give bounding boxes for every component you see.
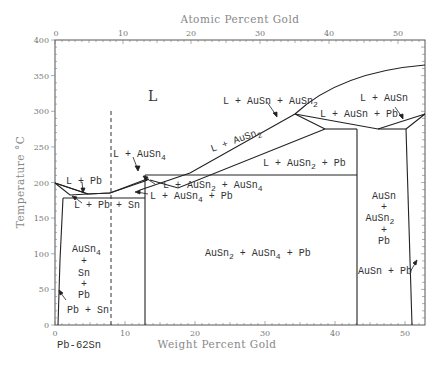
svg-text:350: 350 xyxy=(34,72,49,81)
label-l-ausn: L + AuSn xyxy=(360,93,408,104)
svg-text:+: + xyxy=(81,256,87,267)
svg-text:100: 100 xyxy=(34,250,49,259)
label-ausn-ausn2-pb: AuSn + AuSn2 + Pb xyxy=(366,191,396,247)
top-axis-ticks xyxy=(55,40,419,44)
svg-text:10: 10 xyxy=(120,329,130,338)
svg-text:+: + xyxy=(81,279,87,290)
top-axis-title: Atomic Percent Gold xyxy=(179,13,299,25)
y-tick-labels: 400 350 300 250 200 150 100 50 0 xyxy=(34,36,49,330)
label-ausn-pb: AuSn + Pb xyxy=(358,266,412,277)
label-L: L xyxy=(148,88,157,104)
svg-text:0: 0 xyxy=(44,321,49,330)
svg-text:+: + xyxy=(381,202,387,213)
svg-text:Pb: Pb xyxy=(78,290,90,301)
svg-text:+: + xyxy=(381,225,387,236)
svg-text:0: 0 xyxy=(52,329,57,338)
svg-text:400: 400 xyxy=(34,36,49,45)
label-l-ausn4: L + AuSn4 xyxy=(113,149,166,162)
svg-text:300: 300 xyxy=(34,107,49,116)
label-l-ausn2: L + AuSn2 xyxy=(209,126,263,156)
svg-text:10: 10 xyxy=(118,29,128,38)
svg-text:50: 50 xyxy=(400,329,410,338)
label-l-pb: L + Pb xyxy=(66,176,102,187)
region-labels: L L + AuSn + AuSn2 L + AuSn L + AuSn + P… xyxy=(66,88,412,316)
svg-text:Sn: Sn xyxy=(78,268,90,279)
svg-text:20: 20 xyxy=(190,329,200,338)
svg-text:30: 30 xyxy=(260,329,270,338)
label-l-pb-sn: L + Pb + Sn xyxy=(74,200,140,211)
svg-text:20: 20 xyxy=(186,29,196,38)
label-l-ausn2-pb: L + AuSn2 + Pb xyxy=(263,158,346,171)
svg-text:150: 150 xyxy=(34,214,49,223)
svg-text:200: 200 xyxy=(34,179,49,188)
svg-text:AuSn: AuSn xyxy=(372,191,396,202)
svg-text:250: 250 xyxy=(34,143,49,152)
label-pb-sn: Pb + Sn xyxy=(67,305,109,316)
bottom-tick-labels: 0 10 20 30 40 50 xyxy=(52,329,410,338)
svg-text:40: 40 xyxy=(324,29,334,38)
svg-text:40: 40 xyxy=(330,329,340,338)
bottom-axis-ticks xyxy=(55,321,419,325)
label-ausn4-sn-pb: AuSn4 + Sn + Pb xyxy=(72,244,101,301)
label-l-ausn4-pb: L + AuSn4 + Pb xyxy=(150,191,233,204)
svg-text:0: 0 xyxy=(53,29,58,38)
phase-diagram: 0 10 20 30 40 50 0 10 20 30 40 50 400 35… xyxy=(0,0,443,368)
label-l-ausn-pb: L + AuSn + Pb xyxy=(320,109,398,120)
y-axis-title: Temperature °C xyxy=(14,136,26,228)
svg-text:50: 50 xyxy=(39,285,49,294)
top-tick-labels: 0 10 20 30 40 50 xyxy=(53,29,403,38)
alloy-label: Pb-62Sn xyxy=(57,339,101,351)
bottom-axis-title: Weight Percent Gold xyxy=(157,338,276,350)
label-ausn2-ausn4-pb: AuSn2 + AuSn4 + Pb xyxy=(205,248,311,261)
svg-text:Pb: Pb xyxy=(378,236,390,247)
svg-text:30: 30 xyxy=(255,29,265,38)
svg-text:50: 50 xyxy=(393,29,403,38)
